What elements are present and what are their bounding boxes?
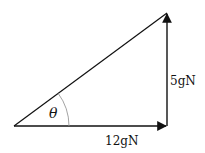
force-triangle-diagram: θ 12gN 5gN xyxy=(0,0,205,153)
hypotenuse-line xyxy=(14,13,167,126)
vertical-force-label: 5gN xyxy=(170,74,196,88)
angle-theta-label: θ xyxy=(49,105,58,121)
angle-arc xyxy=(58,93,69,126)
horizontal-force-label: 12gN xyxy=(105,134,138,148)
